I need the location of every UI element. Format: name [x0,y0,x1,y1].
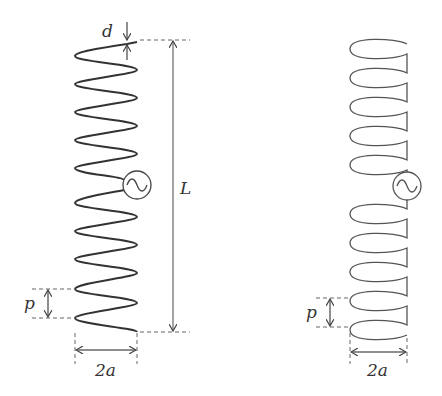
label-wire-diameter: d [102,21,113,41]
label-diameter: 2a [94,360,116,380]
label-diameter-right: 2a [366,360,388,380]
label-pitch-right: p [306,302,317,322]
label-length: L [179,178,191,198]
voltage-source-icon-right [393,172,421,200]
label-pitch: p [24,293,35,313]
helix-antenna-diagram: L d p 2a p 2a [0,0,442,396]
voltage-source-icon [123,171,151,199]
